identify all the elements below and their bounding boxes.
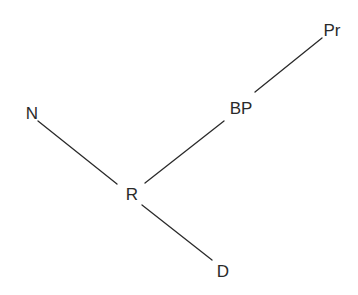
- node-n: N: [26, 105, 38, 122]
- edge-bp-pr: [255, 38, 322, 92]
- node-pr: Pr: [324, 22, 341, 39]
- tree-diagram: [0, 0, 358, 295]
- edge-n-r: [38, 121, 117, 184]
- edge-r-d: [142, 205, 212, 260]
- node-bp: BP: [230, 100, 253, 117]
- edge-r-bp: [145, 121, 224, 183]
- node-r: R: [126, 186, 138, 203]
- node-d: D: [217, 263, 229, 280]
